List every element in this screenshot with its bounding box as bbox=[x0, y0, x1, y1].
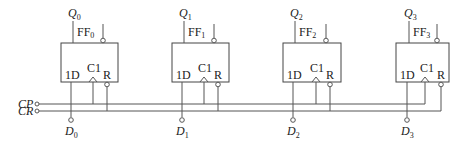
reset-pin-label: R bbox=[437, 68, 445, 82]
cr-terminal bbox=[35, 109, 39, 113]
ff-label: FF2 bbox=[299, 25, 316, 40]
reset-bubble bbox=[216, 82, 221, 87]
d-terminal bbox=[180, 118, 185, 123]
flip-flop-3: Q3 FF3 1D C1 R D3 bbox=[396, 6, 449, 140]
q-label: Q0 bbox=[68, 6, 81, 22]
ff-label: FF0 bbox=[77, 25, 94, 40]
flip-flop-2: Q2 FF2 1D C1 R D2 bbox=[283, 6, 341, 140]
cp-terminal bbox=[35, 102, 39, 106]
d-label: D1 bbox=[175, 124, 189, 140]
flip-flop-1: Q1 FF1 1D C1 R D1 bbox=[172, 6, 229, 140]
d-label: D3 bbox=[400, 124, 414, 140]
d-terminal bbox=[405, 118, 410, 123]
clk-pin-label: C1 bbox=[310, 61, 324, 75]
d-pin-label: 1D bbox=[400, 68, 415, 82]
reset-bubble bbox=[328, 82, 333, 87]
d-pin-label: 1D bbox=[176, 68, 191, 82]
q-label: Q3 bbox=[404, 6, 417, 22]
cr-line bbox=[35, 109, 441, 113]
d-pin-label: 1D bbox=[65, 68, 80, 82]
cr-label: CR bbox=[18, 104, 34, 118]
reset-pin-label: R bbox=[103, 68, 111, 82]
circuit-diagram: CP CR Q0 FF0 1D C1 R D0 Q1 FF1 1D C1 R bbox=[0, 0, 468, 145]
d-pin-label: 1D bbox=[287, 68, 302, 82]
clk-pin-label: C1 bbox=[420, 61, 434, 75]
set-pin-bubble bbox=[324, 38, 329, 43]
d-terminal bbox=[69, 118, 74, 123]
d-terminal bbox=[291, 118, 296, 123]
set-pin-bubble bbox=[212, 38, 217, 43]
ff-label: FF1 bbox=[188, 25, 205, 40]
ff-label: FF3 bbox=[413, 25, 430, 40]
q-label: Q2 bbox=[290, 6, 303, 22]
reset-bubble bbox=[439, 82, 444, 87]
reset-pin-label: R bbox=[326, 68, 334, 82]
clk-pin-label: C1 bbox=[198, 61, 212, 75]
clk-pin-label: C1 bbox=[87, 61, 101, 75]
set-pin-bubble bbox=[101, 38, 106, 43]
reset-pin-label: R bbox=[214, 68, 222, 82]
d-label: D2 bbox=[286, 124, 300, 140]
set-pin-bubble bbox=[435, 38, 440, 43]
d-label: D0 bbox=[64, 124, 78, 140]
reset-bubble bbox=[105, 82, 110, 87]
flip-flop-0: Q0 FF0 1D C1 R D0 bbox=[61, 6, 118, 140]
q-label: Q1 bbox=[179, 6, 192, 22]
